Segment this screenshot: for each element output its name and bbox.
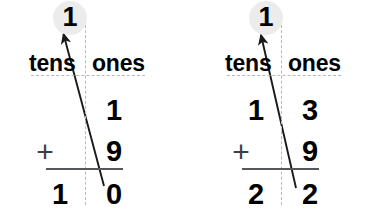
answer-rule-line	[242, 168, 319, 170]
sum-tens-digit: 2	[243, 180, 269, 209]
sum-ones-digit: 2	[297, 180, 323, 209]
dashed-vertical-divider	[281, 25, 282, 205]
plus-operator: +	[228, 137, 254, 167]
column-header-ones: ones	[288, 52, 341, 75]
carry-digit-group: 1	[249, 1, 283, 35]
addition-problem-1: 1 tens ones 1 + 9 1 0	[0, 0, 188, 219]
addend2-ones-digit: 9	[297, 137, 323, 166]
answer-rule-line	[46, 168, 123, 170]
column-header-tens: tens	[29, 52, 76, 75]
column-header-ones: ones	[92, 52, 145, 75]
addition-problem-2: 1 tens ones 1 3 + 9 2 2	[196, 0, 377, 219]
worksheet-canvas: 1 tens ones 1 + 9 1 0	[0, 0, 377, 219]
carry-digit-value: 1	[53, 4, 87, 31]
sum-tens-digit: 1	[47, 180, 73, 209]
addend1-ones-digit: 3	[297, 96, 323, 125]
addend2-ones-digit: 9	[101, 137, 127, 166]
carry-arrow-icon	[196, 0, 377, 219]
plus-operator: +	[32, 137, 58, 167]
carry-arrow-icon	[0, 0, 188, 219]
carry-digit-group: 1	[53, 1, 87, 35]
dashed-horizontal-divider	[31, 75, 145, 76]
addend1-ones-digit: 1	[101, 96, 127, 125]
dashed-vertical-divider	[85, 25, 86, 205]
column-header-tens: tens	[225, 52, 272, 75]
carry-digit-value: 1	[249, 4, 283, 31]
addend1-tens-digit: 1	[243, 96, 269, 125]
dashed-horizontal-divider	[227, 75, 341, 76]
sum-ones-digit: 0	[101, 180, 127, 209]
